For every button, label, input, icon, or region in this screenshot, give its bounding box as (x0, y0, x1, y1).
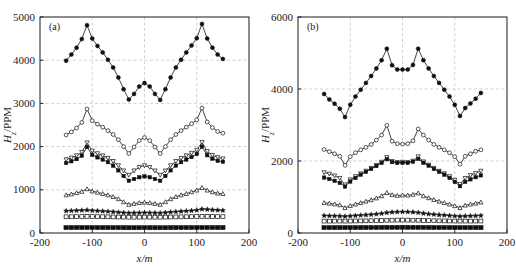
data-point-series-7 (158, 215, 162, 219)
data-point-series-4 (422, 161, 425, 164)
data-point-series-8 (385, 225, 389, 229)
data-point-series-7 (75, 215, 79, 219)
chart-panel-a: 010002000300040005000-200-1000100200x/mH… (0, 0, 258, 280)
data-point-series-4 (453, 180, 456, 183)
data-point-series-8 (369, 225, 373, 229)
data-point-series-7 (432, 219, 436, 223)
data-point-series-1 (163, 87, 167, 91)
data-point-series-5 (374, 196, 378, 200)
data-point-series-6 (158, 210, 163, 215)
data-point-series-1 (338, 107, 342, 111)
data-point-series-8 (390, 225, 394, 229)
data-point-series-8 (158, 226, 162, 230)
data-point-series-6 (327, 213, 332, 218)
data-point-series-4 (396, 161, 399, 164)
data-point-series-3 (101, 154, 105, 158)
data-point-series-1 (333, 102, 337, 106)
data-point-series-6 (79, 208, 84, 213)
data-point-series-4 (153, 177, 156, 180)
x-tick-label: 0 (400, 236, 406, 248)
x-tick-label: 100 (447, 236, 464, 248)
data-point-series-4 (85, 145, 88, 148)
data-point-series-3 (179, 156, 183, 160)
data-point-series-8 (473, 226, 477, 230)
data-point-series-8 (127, 226, 131, 230)
data-point-series-8 (338, 226, 342, 230)
data-point-series-1 (143, 81, 147, 85)
data-point-series-1 (153, 92, 157, 96)
data-point-series-7 (95, 215, 99, 219)
y-tick-label: 6000 (271, 11, 294, 23)
data-point-series-4 (385, 158, 388, 161)
data-point-series-4 (375, 164, 378, 167)
data-point-series-6 (468, 213, 473, 218)
data-point-series-6 (137, 210, 142, 215)
data-point-series-4 (75, 157, 78, 160)
data-point-series-7 (153, 215, 157, 219)
data-point-series-2 (158, 152, 162, 156)
data-point-series-4 (406, 161, 409, 164)
data-point-series-6 (111, 209, 116, 214)
data-point-series-6 (322, 213, 327, 218)
data-point-series-5 (200, 186, 204, 190)
data-point-series-6 (369, 212, 374, 217)
data-point-series-1 (101, 50, 105, 54)
data-point-series-1 (80, 37, 84, 41)
data-point-series-4 (132, 177, 135, 180)
data-point-series-7 (427, 219, 431, 223)
data-point-series-3 (189, 151, 193, 155)
data-point-series-2 (374, 138, 378, 142)
data-point-series-4 (96, 156, 99, 159)
data-point-series-2 (401, 142, 405, 146)
data-point-series-6 (215, 208, 220, 213)
y-tick-label: 5000 (13, 11, 36, 23)
data-point-series-6 (332, 213, 337, 218)
data-point-series-2 (64, 133, 68, 137)
data-point-series-3 (95, 152, 99, 156)
data-point-series-8 (184, 226, 188, 230)
data-point-series-6 (142, 210, 147, 215)
data-point-series-3 (332, 174, 336, 178)
data-point-series-6 (363, 212, 368, 217)
y-axis-title: Hz/PPM (1, 107, 18, 144)
data-point-series-8 (168, 226, 172, 230)
data-point-series-7 (327, 219, 331, 223)
data-point-series-8 (426, 225, 430, 229)
data-point-series-7 (395, 218, 399, 222)
data-point-series-2 (205, 120, 209, 124)
data-point-series-3 (479, 169, 483, 173)
data-point-series-8 (111, 226, 115, 230)
data-point-series-8 (179, 226, 183, 230)
data-point-series-8 (416, 225, 420, 229)
data-point-series-7 (322, 219, 326, 223)
data-point-series-4 (333, 179, 336, 182)
data-point-series-8 (432, 225, 436, 229)
data-point-series-5 (385, 191, 389, 195)
data-point-series-1 (200, 22, 204, 26)
data-point-series-7 (90, 215, 94, 219)
data-point-series-1 (401, 68, 405, 72)
data-point-series-6 (379, 211, 384, 216)
data-point-series-1 (327, 97, 331, 101)
x-tick-label: 200 (241, 236, 258, 248)
data-point-series-7 (479, 219, 483, 223)
data-point-series-1 (385, 47, 389, 51)
data-point-series-1 (359, 88, 363, 92)
data-point-series-4 (148, 176, 151, 179)
data-point-series-4 (158, 179, 161, 182)
data-point-series-8 (142, 226, 146, 230)
data-point-series-1 (411, 63, 415, 67)
data-point-series-7 (200, 214, 204, 218)
data-point-series-2 (369, 143, 373, 147)
data-point-series-6 (147, 210, 152, 215)
data-point-series-5 (163, 200, 167, 204)
data-point-series-2 (448, 151, 452, 155)
data-point-series-4 (101, 158, 104, 161)
data-point-series-7 (106, 215, 110, 219)
data-point-series-7 (137, 215, 141, 219)
data-point-series-4 (427, 164, 430, 167)
data-point-series-1 (432, 74, 436, 78)
data-point-series-5 (85, 187, 89, 191)
data-point-series-3 (184, 154, 188, 158)
data-point-series-3 (158, 173, 162, 177)
